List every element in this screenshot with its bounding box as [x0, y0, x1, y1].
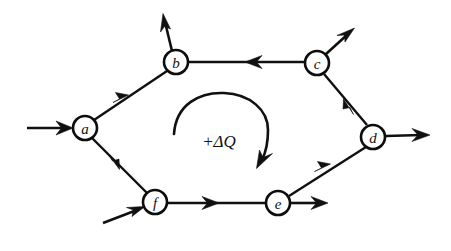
inflow-arrow-f-head: [127, 207, 146, 217]
node-e-label: e: [275, 196, 282, 212]
edge-a-f: [92, 138, 147, 193]
edge-a-b: [94, 71, 167, 120]
edge-d-c: [324, 74, 367, 125]
node-f[interactable]: f: [143, 190, 167, 214]
edge-e-d-line: [289, 147, 366, 196]
inflow-arrow-f: [103, 207, 145, 224]
edge-f-e: [167, 197, 266, 210]
node-c-label: c: [314, 56, 321, 72]
node-b[interactable]: b: [164, 50, 188, 74]
outflow-arrow-c: [326, 28, 355, 54]
edge-a-f-arrowhead: [109, 155, 120, 170]
outflow-arrow-b: [161, 14, 173, 52]
edge-a-b-line: [94, 71, 167, 120]
inflow-arrow-a: [27, 121, 73, 135]
node-b-label: b: [172, 55, 180, 71]
node-c[interactable]: c: [305, 51, 329, 75]
node-d[interactable]: d: [361, 125, 385, 149]
edge-e-d: [289, 147, 366, 196]
edge-d-c-line: [324, 74, 367, 125]
node-e[interactable]: e: [266, 191, 290, 215]
outflow-arrow-d: [386, 129, 430, 142]
node-a[interactable]: a: [73, 116, 97, 140]
edge-c-b: [188, 56, 305, 69]
circulation-label: +ΔQ: [202, 132, 236, 151]
node-a-label: a: [81, 121, 89, 137]
outflow-arrow-d-line: [386, 135, 421, 136]
figure-canvas: a b c d e f +ΔQ: [0, 0, 451, 251]
node-d-label: d: [369, 130, 377, 146]
outflow-arrow-e: [291, 197, 328, 210]
cycle-diagram: a b c d e f +ΔQ: [0, 0, 451, 251]
